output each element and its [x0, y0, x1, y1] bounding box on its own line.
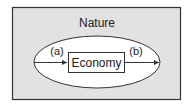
flow-out-label: (b): [129, 45, 142, 57]
nature-label: Nature: [79, 16, 115, 30]
economy-label: Economy: [71, 56, 121, 70]
flow-in-label: (a): [50, 45, 63, 57]
nature-economy-diagram: Nature Economy (a) (b): [0, 0, 191, 107]
